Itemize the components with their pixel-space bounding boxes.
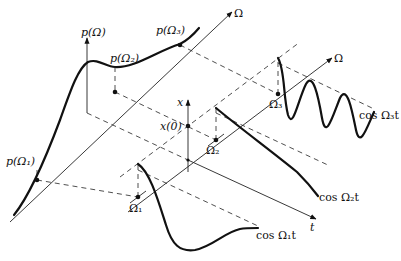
back-omega-label: Ω xyxy=(234,7,243,20)
t-axis xyxy=(188,160,316,219)
cos3-level-line xyxy=(278,63,372,108)
p-omega1-dot xyxy=(35,178,40,183)
p-omega1-label: p(Ω₁) xyxy=(6,155,35,168)
origin-dot xyxy=(186,158,189,161)
cos-omega2-curve xyxy=(216,108,318,196)
omega3-dot xyxy=(276,92,281,97)
omega2-label: Ω₂ xyxy=(206,144,220,157)
p-axis-label: p(Ω) xyxy=(81,26,106,39)
x0-label: x(0) xyxy=(160,120,182,133)
diagram-canvas: Ω Ω p(Ω) p(Ω₁) p(Ω₂) p(Ω₃) x x(0) t Ω₁ Ω… xyxy=(0,0,401,261)
p-omega3-label: p(Ω₃) xyxy=(156,24,185,37)
omega3-label: Ω₃ xyxy=(269,98,283,111)
cos-omega1-curve xyxy=(138,164,258,250)
x-axis-label: x xyxy=(177,96,184,109)
spectral-decomposition-diagram: Ω Ω p(Ω) p(Ω₁) p(Ω₂) p(Ω₃) x x(0) t Ω₁ Ω… xyxy=(0,0,401,261)
cos-omega3-label: cos Ω₃t xyxy=(359,109,399,122)
cos-omega3-curve xyxy=(278,58,374,137)
back-omega-axis xyxy=(10,12,232,222)
t-axis-label: t xyxy=(310,221,315,234)
p-omega2-dot xyxy=(113,90,118,95)
p-omega2-label: p(Ω₂) xyxy=(110,52,139,65)
p-omega3-dot xyxy=(178,43,183,48)
cos-omega2-label: cos Ω₂t xyxy=(319,191,359,204)
cos-omega1-label: cos Ω₁t xyxy=(256,229,296,242)
omega1-label: Ω₁ xyxy=(129,202,143,215)
omega1-dot xyxy=(136,195,141,200)
omega2-dot xyxy=(214,138,219,143)
front-omega-label: Ω xyxy=(334,52,343,65)
back-baseline-lines xyxy=(37,45,278,197)
